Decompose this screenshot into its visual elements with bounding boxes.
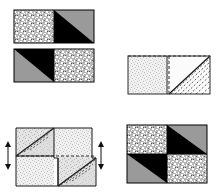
panel-bottom-right [127, 125, 207, 183]
rectangle-piece-a [14, 10, 94, 43]
shear-upper-right-cell [54, 128, 92, 156]
piece-a-speckle-half [14, 10, 54, 43]
piece-b-speckle-half [54, 49, 94, 82]
rectangle-piece-b [14, 49, 94, 82]
panel-top-right [128, 56, 210, 94]
figure-canvas [0, 0, 220, 193]
assembled-top-left-quadrant [127, 125, 167, 154]
dissection-figure [0, 0, 220, 193]
shear-lower-left-cell [16, 156, 54, 186]
construction-left-cell [128, 56, 169, 94]
assembled-bottom-right-quadrant [167, 154, 207, 183]
